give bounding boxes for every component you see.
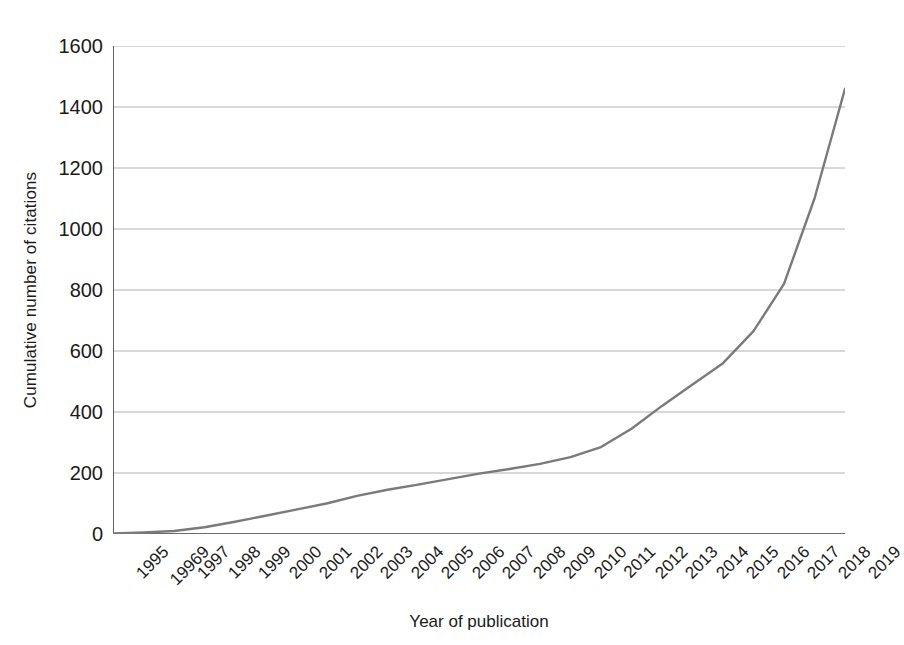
y-tick-label: 200 (50, 463, 112, 483)
x-tick-label: 2016 (774, 543, 813, 582)
x-tick-label: 1999 (255, 543, 294, 582)
x-tick-label: 2015 (743, 543, 782, 582)
x-tick-label: 1997 (194, 543, 233, 582)
plot-area (113, 46, 845, 534)
y-tick-label: 1600 (50, 36, 112, 56)
x-tick-label: 2008 (530, 543, 569, 582)
x-tick-label: 1995 (133, 543, 172, 582)
x-tick-label: 19969 (166, 543, 211, 588)
y-tick-label: 1000 (50, 219, 112, 239)
x-tick-label: 2005 (438, 543, 477, 582)
x-tick-label: 2000 (286, 543, 325, 582)
x-tick-label: 2011 (621, 543, 659, 581)
x-tick-label: 2007 (499, 543, 538, 582)
y-axis-tick-labels: 02004006008001000120014001600 (50, 0, 112, 645)
chart-svg (113, 46, 845, 534)
y-tick-label: 0 (50, 524, 112, 544)
x-tick-label: 2003 (377, 543, 416, 582)
x-tick-label: 2002 (347, 543, 386, 582)
x-tick-label: 2001 (316, 543, 355, 582)
y-tick-label: 1400 (50, 97, 112, 117)
y-tick-label: 800 (50, 280, 112, 300)
x-tick-label: 2018 (835, 543, 874, 582)
x-tick-label: 1998 (225, 543, 264, 582)
x-tick-label: 2004 (408, 543, 447, 582)
x-tick-label: 2009 (560, 543, 599, 582)
data-series-line (113, 89, 845, 534)
x-tick-label: 2006 (469, 543, 508, 582)
y-tick-label: 600 (50, 341, 112, 361)
x-tick-label: 2014 (713, 543, 752, 582)
y-axis-title: Cumulative number of citations (14, 25, 48, 555)
y-tick-label: 400 (50, 402, 112, 422)
x-tick-label: 2019 (865, 543, 904, 582)
x-tick-label: 2017 (804, 543, 843, 582)
x-tick-label: 2013 (682, 543, 721, 582)
x-tick-label: 2012 (652, 543, 691, 582)
x-tick-label: 2010 (591, 543, 630, 582)
x-axis-title: Year of publication (113, 612, 845, 632)
gridlines (113, 46, 845, 473)
y-tick-label: 1200 (50, 158, 112, 178)
